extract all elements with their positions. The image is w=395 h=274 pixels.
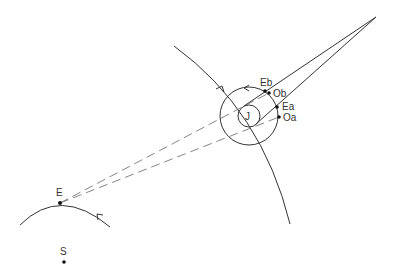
diagram-canvas: J Eb Ob Ea Oa E S <box>0 0 395 274</box>
earth-orbit-arc <box>20 205 110 227</box>
label-ob: Ob <box>273 88 287 99</box>
sun-point <box>62 260 66 264</box>
sightline-lower <box>60 117 279 203</box>
ea-point <box>275 105 279 109</box>
jupiter-orbit-arc <box>174 46 290 224</box>
label-earth: E <box>56 187 63 198</box>
ob-point <box>267 91 271 95</box>
label-sun: S <box>60 246 67 257</box>
oa-point <box>277 115 281 119</box>
shadow-line-lower <box>256 17 376 124</box>
label-oa: Oa <box>283 112 297 123</box>
shadow-line-upper <box>244 17 376 106</box>
earth-point <box>58 201 62 205</box>
label-jupiter: J <box>245 111 250 122</box>
sightline-upper <box>60 93 269 203</box>
moon-orbit-arrow-icon <box>244 85 249 91</box>
eb-point <box>263 89 267 93</box>
label-ea: Ea <box>282 101 295 112</box>
label-eb: Eb <box>260 77 273 88</box>
